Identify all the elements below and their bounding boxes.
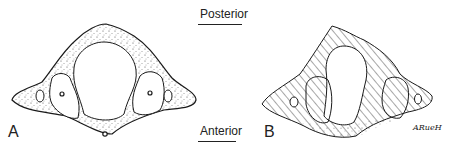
artist-signature: ARueH	[413, 123, 442, 132]
vertebra-a-drawing	[0, 0, 228, 152]
posterior-underline	[198, 24, 242, 25]
panel-b-label: B	[264, 123, 275, 141]
posterior-text: Posterior	[200, 7, 248, 21]
panel-a-label: A	[8, 123, 19, 141]
anterior-label: Anterior	[200, 124, 242, 142]
panel-a-illustration	[0, 0, 228, 152]
posterior-label: Posterior	[200, 7, 248, 25]
anterior-text: Anterior	[200, 124, 242, 138]
anterior-underline	[198, 141, 236, 142]
